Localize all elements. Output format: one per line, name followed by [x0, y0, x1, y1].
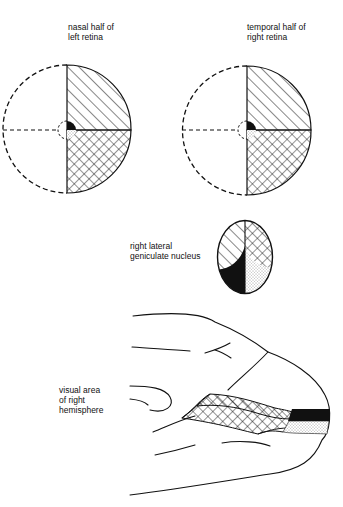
left-retina	[3, 65, 131, 193]
cortex-visual-area	[182, 394, 330, 434]
cortex-stipple-region	[283, 421, 329, 434]
lower-temporal-quadrant	[67, 130, 131, 193]
visual-pathway-diagram	[0, 0, 343, 507]
lateral-geniculate-nucleus	[215, 218, 275, 298]
right-retina	[182, 66, 311, 195]
upper-temporal-quadrant	[67, 65, 131, 130]
cortex-black-region	[288, 409, 330, 421]
lower-quadrant	[247, 130, 311, 195]
upper-quadrant	[247, 66, 311, 130]
